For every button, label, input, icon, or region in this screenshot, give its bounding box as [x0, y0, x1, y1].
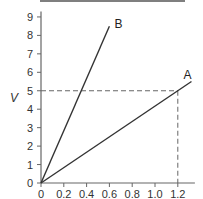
x-tick-label: 1.2: [170, 188, 185, 199]
x-tick-label: 0.4: [79, 188, 94, 199]
series-label-b: B: [114, 17, 122, 31]
y-tick-label: 9: [27, 11, 33, 23]
y-tick-label: 7: [27, 48, 33, 60]
y-tick-label: 4: [27, 103, 33, 115]
x-tick-label: 0.6: [102, 188, 117, 199]
x-tick-label: 0.8: [125, 188, 140, 199]
axes: [41, 11, 195, 183]
series-lines: [41, 26, 191, 183]
x-tick-label: 0: [38, 188, 44, 199]
series-label-a: A: [183, 68, 191, 82]
y-tick-label: 8: [27, 29, 33, 41]
x-tick-label: 1.0: [147, 188, 162, 199]
y-tick-label: 5: [27, 85, 33, 97]
y-tick-label: 1: [27, 159, 33, 171]
y-tick-label: 0: [27, 177, 33, 189]
y-tick-label: 6: [27, 66, 33, 78]
y-axis-label: V: [10, 91, 19, 105]
y-tick-label: 2: [27, 140, 33, 152]
chart: 00.20.40.60.81.01.20123456789 A B I V: [0, 0, 203, 199]
ticks: 00.20.40.60.81.01.20123456789: [27, 11, 186, 199]
x-tick-label: 0.2: [56, 188, 71, 199]
y-tick-label: 3: [27, 122, 33, 134]
